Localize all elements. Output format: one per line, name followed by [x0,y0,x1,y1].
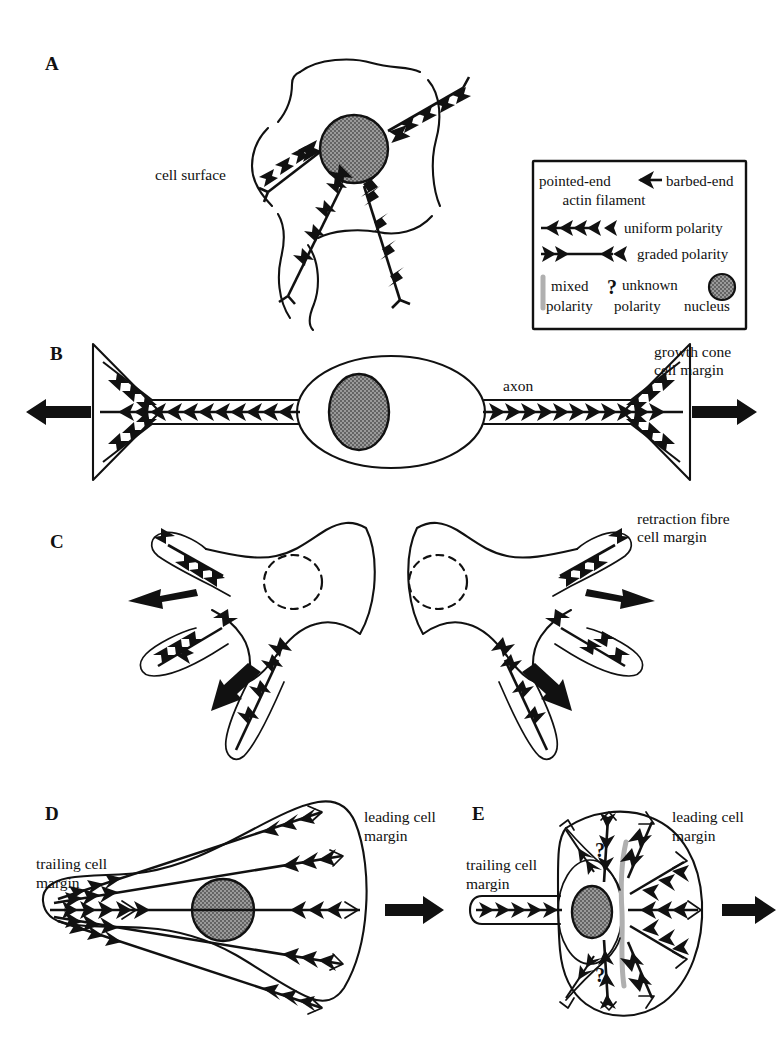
legend-uniform-polarity-label: uniform polarity [624,220,723,236]
panel-e-leading-margin-label-line1: leading cell [672,808,744,825]
panel-b: B [26,343,757,480]
panel-a-filament-bundle-ne [387,77,471,145]
panel-d-bundle-lower-outer [58,918,322,1014]
panel-d-leading-margin-label-line2: margin [364,827,408,844]
legend-mixed-polarity-line2: polarity [546,298,593,314]
panel-c-nucleus-right [409,555,467,609]
panel-a-nucleus [320,115,388,183]
figure-canvas: A [0,0,783,1060]
legend-unknown-polarity-line1: unknown [622,277,678,293]
panel-e-unknown-lobe-upper [560,820,620,890]
panel-e-trailing-margin-label-line2: margin [466,875,510,892]
panel-d-bundle-upper-outer [58,806,322,902]
question-mark-icon: ? [607,276,617,298]
axon-label: axon [503,377,533,394]
panel-d-letter: D [45,803,59,824]
panel-c-direction-arrow-left-lower [211,663,261,711]
panel-d-direction-arrow [385,896,444,924]
panel-a-filament-bundle-sw [279,164,353,304]
panel-e-leading-bundle-0 [628,901,701,919]
panel-a-filament-bundle-se [361,174,410,308]
panel-e-trailing-margin-label-line1: trailing cell [466,856,537,873]
panel-e-leading-margin-label-line2: margin [672,827,716,844]
panel-e-unknown-lobe-lower [560,938,620,1008]
panel-b-axon-bundle-left [100,403,300,421]
panel-d-leading-margin-label-line1: leading cell [364,808,436,825]
panel-e-nucleus [572,886,612,938]
panel-c-retraction-fibre-left-2 [140,609,238,676]
panel-b-nucleus [329,374,389,450]
panel-d: D [36,801,444,1014]
cell-surface-label: cell surface [155,166,226,183]
legend-graded-polarity-label: graded polarity [637,246,729,262]
retraction-fibre-label-line1: retraction fibre [637,510,730,527]
panel-e-unknown-polarity-mark-top: ? [595,839,605,861]
panel-e-direction-arrow [722,896,776,924]
panel-a-cell-outline [252,60,440,330]
retraction-fibre-label-line2: cell margin [637,528,707,545]
panel-c-direction-arrow-left-upper [128,589,198,609]
panel-c-letter: C [50,531,64,552]
panel-b-letter: B [50,343,63,364]
legend-mixed-polarity-line1: mixed [551,278,589,294]
panel-b-direction-arrow-left [26,399,91,425]
panel-e-unknown-polarity-mark-bottom: ? [595,964,605,986]
panel-e-letter: E [472,803,485,824]
legend-barbed-end-label: barbed-end [666,173,734,189]
legend-nucleus-label: nucleus [684,298,730,314]
panel-c-retraction-fibre-right-1 [553,528,631,596]
panel-c-retraction-fibre-left-1 [152,528,230,596]
panel-e-tail-bundle [476,902,562,918]
panel-a: A [45,53,471,330]
panel-d-trailing-margin-label-line2: margin [36,874,80,891]
panel-c-cell-right [408,523,577,682]
panel-b-direction-arrow-right [692,399,757,425]
polarity-legend: pointed-end barbed-end actin filament un… [533,161,746,329]
panel-c-nucleus-left [264,555,322,609]
panel-a-letter: A [45,53,59,74]
panel-c-direction-arrow-right-upper [585,589,655,609]
panel-e-mixed-polarity-band [621,842,626,986]
growth-cone-label-line2: cell margin [654,361,724,378]
panel-a-filament-bundle-w [259,140,321,202]
legend-actin-filament-caption: actin filament [563,192,647,208]
nucleus-circle-icon [709,274,735,300]
legend-unknown-polarity-line2: polarity [614,298,661,314]
panel-c-direction-arrow-right-lower [522,663,572,711]
panel-b-axon-bundle-right [483,403,683,421]
figure-root: A [0,0,783,1060]
panel-d-trailing-margin-label-line1: trailing cell [36,855,107,872]
panel-c-cell-left [206,523,375,682]
growth-cone-label-line1: growth cone [654,343,731,360]
panel-c-retraction-fibre-right-2 [545,609,643,676]
panel-e: E [466,803,776,1016]
panel-c: C [50,510,730,759]
legend-pointed-end-label: pointed-end [539,173,611,189]
